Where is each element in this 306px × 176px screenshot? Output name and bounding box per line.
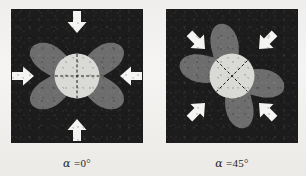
arrow-bottom — [68, 119, 87, 141]
panel-canvas-alpha-0 — [11, 9, 143, 143]
caption-alpha-0: α =0° — [11, 157, 143, 170]
arrow-top-right — [252, 27, 281, 56]
caption-symbol-alpha-45: α — [215, 157, 223, 170]
arrow-bottom-right — [252, 96, 281, 125]
arrow-top — [68, 11, 87, 33]
caption-alpha-45: α =45° — [166, 157, 298, 170]
arrow-left — [12, 67, 34, 86]
caption-value-alpha-45: =45° — [226, 157, 249, 169]
specimen-scene-alpha-45 — [166, 9, 298, 143]
arrow-top-left — [183, 27, 212, 56]
arrow-bottom-left — [183, 96, 212, 125]
caption-value-alpha-0: =0° — [74, 157, 91, 169]
panel-canvas-alpha-45 — [166, 9, 298, 143]
caption-symbol-alpha-0: α — [63, 157, 71, 170]
figure-panel-alpha-0: α =0° — [11, 9, 143, 143]
arrow-right — [120, 67, 142, 86]
figure-pair: α =0° — [0, 0, 306, 176]
specimen-scene-alpha-0 — [11, 9, 143, 143]
figure-panel-alpha-45: α =45° — [166, 9, 298, 143]
load-arrows-alpha-0 — [11, 9, 143, 143]
load-arrows-alpha-45 — [166, 9, 298, 143]
